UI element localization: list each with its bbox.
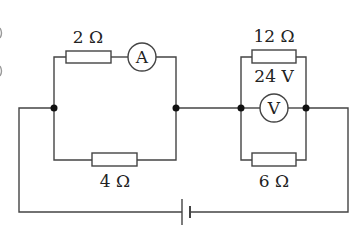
resistor-4ohm-label: 4 Ω [100,171,130,191]
right-parallel-block: 12 Ω 24 V V 6 Ω [241,26,306,191]
outer-loop [19,108,348,225]
voltage-label-24v: 24 V [254,66,294,86]
junction-node-center-right [238,105,245,112]
resistor-12ohm [252,50,296,63]
wire-right-top-out [296,57,306,108]
cropped-mark-bottom [0,66,2,76]
resistor-2ohm-label: 2 Ω [73,27,103,47]
junction-node-center-left [173,105,180,112]
circuit-diagram: 2 Ω A 4 Ω 12 Ω 24 V V 6 Ω [0,0,363,234]
resistor-2ohm [66,51,111,63]
resistor-6ohm [252,153,296,166]
wire-right-top-in [241,57,252,108]
resistor-12ohm-label: 12 Ω [253,26,294,46]
wire-left-bottom-in [54,108,92,160]
ammeter-label: A [135,47,149,67]
junction-node-right [303,105,310,112]
left-parallel-block: 2 Ω A 4 Ω [54,27,176,191]
wire-right-bottom-in [241,108,252,160]
wire-right-bottom-out [296,108,306,160]
cropped-mark-top [0,28,2,38]
wire-left-bottom-out [137,108,176,160]
wire-left-top-in [54,57,66,108]
voltmeter-label: V [267,98,281,118]
junction-node-left [51,105,58,112]
wire-left-top-out [156,57,176,108]
resistor-4ohm [92,153,137,166]
resistor-6ohm-label: 6 Ω [259,171,289,191]
